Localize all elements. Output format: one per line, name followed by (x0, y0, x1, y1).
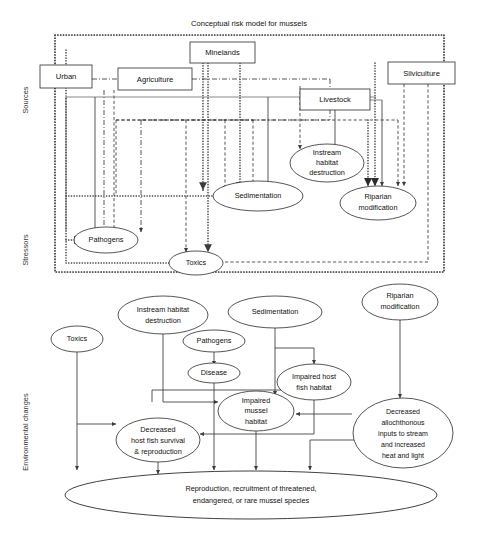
env-decreased-host-fish-survival[interactable]: Decreased host fish survival & reproduct… (116, 418, 200, 462)
stressor-instream-habitat-destruction[interactable]: Instream habitat destruction (290, 144, 364, 182)
env-instream-habitat-destruction[interactable]: Instream habitat destruction (118, 296, 208, 334)
env-disease[interactable]: Disease (188, 363, 240, 383)
env-toxics-label: Toxics (67, 334, 88, 343)
env-pathogens[interactable]: Pathogens (183, 330, 245, 352)
env-impaired-host-fish-habitat[interactable]: Impaired host fish habitat (277, 364, 351, 400)
stressor-pathogens-label: Pathogens (89, 235, 124, 244)
env-riparian-modification[interactable]: Riparian modification (362, 284, 438, 320)
env-alloch-line4: and increased (381, 441, 425, 448)
env-instream-line1: Instream habitat (137, 305, 189, 314)
conceptual-risk-model-figure: Urban Agriculture Minelands Livestock Si… (0, 0, 478, 539)
stressor-riparian-line2: modification (359, 203, 398, 212)
env-sedimentation[interactable]: Sedimentation (228, 296, 322, 328)
stressor-riparian-modification[interactable]: Riparian modification (340, 186, 416, 220)
axis-label-environmental-changes: Environmental changes (21, 393, 30, 471)
env-impaired-mussel-habitat[interactable]: Impaired mussel habitat (218, 391, 294, 431)
source-box-minelands-label: Minelands (205, 48, 240, 57)
env-pathogens-label: Pathogens (197, 336, 232, 345)
env-hostsurv-line1: Decreased (140, 425, 175, 434)
svg-text:Sources: Sources (21, 86, 30, 113)
env-alloch-line3: inputs to stream (378, 430, 428, 438)
env-disease-label: Disease (201, 368, 227, 377)
diagram-canvas: Urban Agriculture Minelands Livestock Si… (0, 0, 478, 539)
stressor-instream-line1: Instream (313, 148, 341, 157)
env-mussel-line3: habitat (245, 417, 267, 426)
env-alloch-line1: Decreased (386, 408, 420, 415)
env-riparian-line2: modification (381, 302, 420, 311)
env-hostsurv-line3: & reproduction (134, 447, 181, 456)
source-box-livestock-label: Livestock (319, 95, 351, 104)
svg-text:Stressors: Stressors (21, 234, 30, 266)
env-toxics[interactable]: Toxics (51, 326, 103, 352)
stressor-toxics[interactable]: Toxics (169, 251, 223, 275)
stressor-sedimentation[interactable]: Sedimentation (213, 181, 303, 211)
env-alloch-line5: heat and light (382, 452, 424, 460)
endpoint-mussel-species[interactable]: Reproduction, recruitment of threatened,… (65, 471, 437, 519)
stressor-pathogens[interactable]: Pathogens (74, 227, 138, 253)
env-instream-line2: destruction (145, 316, 181, 325)
env-mussel-line1: Impaired (242, 396, 270, 405)
source-box-urban[interactable]: Urban (40, 65, 92, 88)
env-host-fish-line1: Impaired host (292, 372, 336, 381)
source-box-minelands[interactable]: Minelands (190, 42, 255, 63)
source-box-agriculture-label: Agriculture (137, 75, 173, 84)
figure-title: Conceptual risk model for mussels (191, 19, 307, 28)
env-hostsurv-line2: host fish survival (131, 436, 185, 445)
source-box-urban-label: Urban (56, 72, 77, 81)
svg-text:Environmental changes: Environmental changes (21, 393, 30, 471)
stressor-instream-line2: habitat (316, 158, 338, 167)
source-box-silviculture-label: Silviculture (403, 69, 440, 78)
endpoint-line2: endangered, or rare mussel species (193, 496, 310, 505)
source-box-silviculture[interactable]: Silviculture (388, 62, 455, 84)
stressor-toxics-label: Toxics (186, 258, 207, 267)
env-alloch-line2: allochthonous (381, 419, 425, 426)
env-host-fish-line2: fish habitat (296, 383, 331, 392)
env-riparian-line1: Riparian (386, 291, 413, 300)
env-decreased-allochthonous-inputs[interactable]: Decreased allochthonous inputs to stream… (353, 398, 453, 468)
env-sedimentation-label: Sedimentation (252, 307, 299, 316)
source-box-livestock[interactable]: Livestock (300, 89, 370, 110)
endpoint-line1: Reproduction, recruitment of threatened, (185, 484, 316, 493)
source-box-agriculture[interactable]: Agriculture (118, 68, 192, 90)
axis-label-stressors: Stressors (21, 234, 30, 266)
stressor-riparian-line1: Riparian (364, 192, 391, 201)
axis-label-sources: Sources (21, 86, 30, 113)
env-mussel-line2: mussel (244, 406, 267, 415)
stressor-sedimentation-label: Sedimentation (235, 191, 282, 200)
stressor-instream-line3: destruction (309, 168, 345, 177)
